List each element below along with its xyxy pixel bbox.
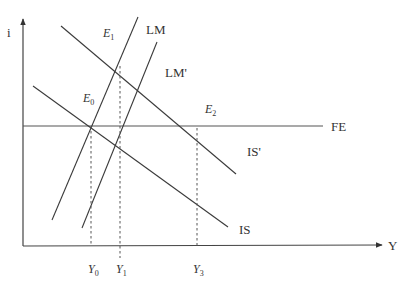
y-axis-label: i	[7, 25, 11, 40]
e2-label: E2	[204, 102, 216, 118]
lm-prime-label: LM'	[165, 65, 187, 80]
e1-label: E1	[102, 26, 114, 42]
lm-curve	[52, 17, 138, 220]
x-axis	[23, 245, 382, 246]
y3-tick-label: Y3	[193, 262, 204, 278]
lm-label: LM	[146, 22, 166, 37]
y0-tick-label: Y0	[88, 262, 99, 278]
lm-prime-curve	[82, 42, 157, 228]
x-axis-label: Y	[388, 238, 398, 253]
is-prime-label: IS'	[247, 144, 261, 159]
e0-label: E0	[82, 91, 94, 107]
y1-tick-label: Y1	[116, 262, 127, 278]
is-lm-fe-diagram: i Y FE IS IS' LM LM' E0 E1 E2 Y0 Y1 Y3	[0, 0, 409, 291]
is-label: IS	[239, 222, 251, 237]
fe-label: FE	[331, 119, 346, 134]
